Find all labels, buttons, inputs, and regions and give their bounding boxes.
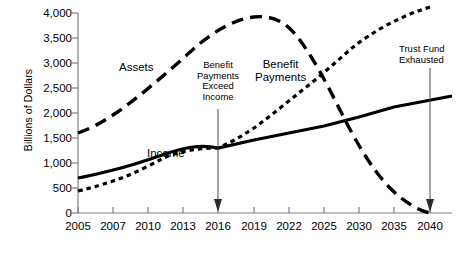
annotation-arrow-2016 [214, 109, 222, 212]
axis-lines [78, 13, 452, 213]
chart-figure: Billions of Dollars 4,000 3,500 3,000 2,… [0, 0, 466, 254]
trust-fund-exhausted-annotation: Trust Fund Exhausted [399, 44, 465, 65]
benefit-payments-label: Benefit Payments [255, 58, 306, 84]
series-line-assets [78, 17, 430, 213]
income-label: Income [147, 147, 185, 160]
assets-label: Assets [119, 61, 154, 74]
annotation-arrow-2040 [426, 68, 434, 212]
chart-plot [0, 0, 466, 254]
benefit-payments-exceed-income-annotation: Benefit Payments Exceed Income [182, 60, 254, 102]
x-axis-ticks [78, 207, 430, 213]
series-line-income [78, 96, 452, 178]
series-line-benefit-payments [78, 7, 430, 191]
y-axis-ticks [72, 13, 78, 213]
